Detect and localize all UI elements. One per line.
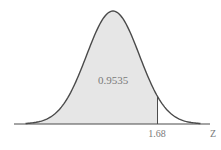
shaded-area (26, 11, 158, 124)
normal-curve-chart: 0.9535 1.68 Z (0, 0, 221, 150)
area-label: 0.9535 (98, 74, 129, 86)
cutoff-label: 1.68 (148, 128, 166, 139)
z-axis-label: Z (210, 128, 216, 139)
